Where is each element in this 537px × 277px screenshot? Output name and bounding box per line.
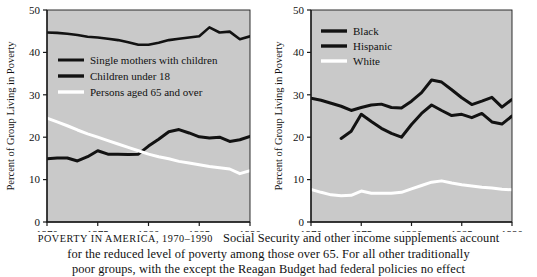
caption-line-2: for the reduced level of poverty among t… bbox=[0, 247, 537, 263]
chart-right-race-groups: 0102030405019701975198019851990Percent o… bbox=[268, 0, 537, 232]
y-tick-label: 0 bbox=[35, 216, 41, 228]
legend-label-persons-aged-65-and-over: Persons aged 65 and over bbox=[90, 86, 203, 98]
legend-label-white: White bbox=[353, 55, 380, 67]
y-tick-label: 40 bbox=[29, 46, 41, 58]
y-tick-label: 10 bbox=[293, 173, 305, 185]
figure-caption: Poverty in America, 1970–1990Social Secu… bbox=[0, 231, 537, 277]
legend-label-single-mothers-with-children: Single mothers with children bbox=[90, 54, 218, 66]
y-axis-title: Percent of Group Living in Poverty bbox=[5, 41, 16, 191]
legend-label-black: Black bbox=[353, 25, 379, 37]
y-tick-label: 20 bbox=[293, 131, 305, 143]
y-tick-label: 30 bbox=[29, 89, 41, 101]
chart-left-family-groups: 0102030405019701975198019851990Percent o… bbox=[0, 0, 268, 232]
plot-background bbox=[47, 10, 250, 222]
legend-label-hispanic: Hispanic bbox=[353, 40, 392, 52]
caption-line-1: Poverty in America, 1970–1990Social Secu… bbox=[0, 231, 537, 247]
y-tick-label: 0 bbox=[299, 216, 305, 228]
y-tick-label: 50 bbox=[29, 4, 41, 16]
poverty-figure: 0102030405019701975198019851990Percent o… bbox=[0, 0, 537, 277]
y-tick-label: 40 bbox=[293, 46, 305, 58]
caption-line-1-text: Social Security and other income supplem… bbox=[223, 231, 499, 245]
y-tick-label: 10 bbox=[29, 173, 41, 185]
caption-title: Poverty in America, 1970–1990 bbox=[38, 233, 213, 244]
caption-line-3: poor groups, with the except the Reagan … bbox=[0, 262, 537, 277]
y-tick-label: 20 bbox=[29, 131, 41, 143]
y-tick-label: 50 bbox=[293, 4, 305, 16]
y-tick-label: 30 bbox=[293, 89, 305, 101]
legend-label-children-under-18: Children under 18 bbox=[90, 70, 171, 82]
y-axis-title: Percent of Group Living in Poverty bbox=[273, 41, 284, 191]
